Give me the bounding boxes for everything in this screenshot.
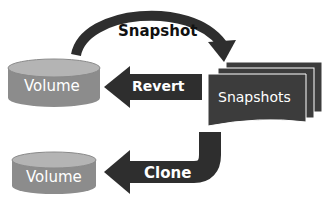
revert-edge-label: Revert <box>132 78 185 94</box>
clone-edge-label: Clone <box>144 164 191 182</box>
volume-top-label: Volume <box>24 77 80 95</box>
volume-bottom-label: Volume <box>26 168 82 186</box>
snapshot-diagram: Snapshot Volume Revert Snapshots Volume … <box>0 0 327 220</box>
snapshots-label: Snapshots <box>218 89 291 105</box>
clone-arrow <box>104 132 210 194</box>
snapshot-edge-label: Snapshot <box>118 22 197 40</box>
